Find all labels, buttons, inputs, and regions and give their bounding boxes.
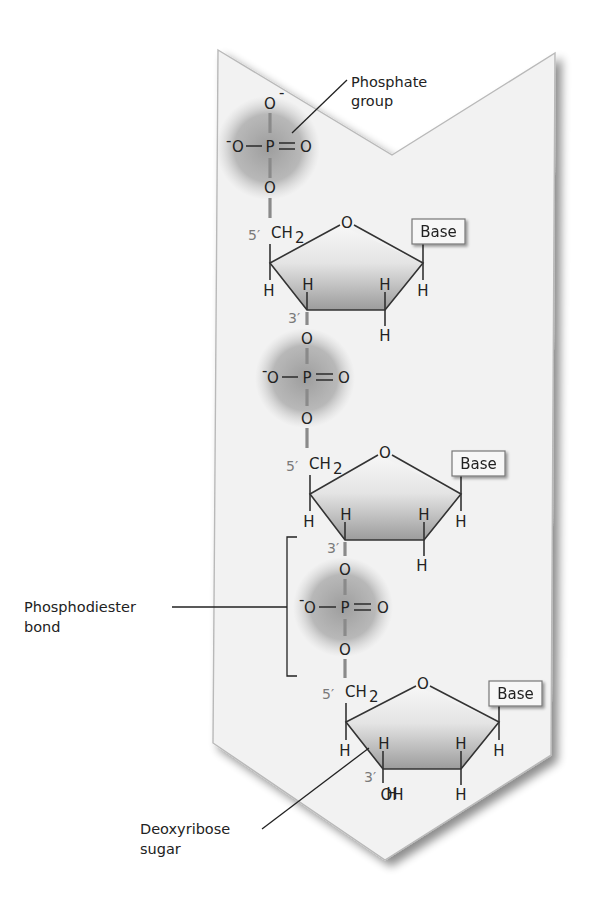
svg-text:H: H: [455, 735, 466, 753]
svg-text:H: H: [339, 742, 350, 760]
svg-text:2: 2: [295, 229, 305, 247]
svg-text:O: O: [301, 410, 313, 428]
base-box-1: Base: [412, 219, 465, 244]
svg-text:CH: CH: [309, 455, 331, 473]
svg-text:3′: 3′: [327, 540, 339, 556]
svg-text:O: O: [379, 444, 391, 462]
svg-text:CH: CH: [271, 224, 293, 242]
three-prime-hydroxyl: OH: [380, 786, 403, 804]
svg-text:5′: 5′: [286, 458, 298, 474]
svg-text:Phosphodiester: Phosphodiester: [24, 599, 136, 615]
svg-text:H: H: [378, 735, 389, 753]
svg-text:Base: Base: [497, 685, 534, 703]
svg-text:H: H: [455, 513, 466, 531]
svg-text:P: P: [302, 369, 311, 387]
svg-text:bond: bond: [24, 619, 60, 635]
svg-text:-: -: [279, 84, 284, 102]
svg-text:-: -: [226, 132, 231, 150]
svg-text:sugar: sugar: [140, 841, 181, 857]
svg-text:Phosphate: Phosphate: [351, 74, 427, 90]
svg-text:H: H: [417, 282, 428, 300]
svg-text:5′: 5′: [322, 686, 334, 702]
dna-strand-diagram: O - - O P O O O CH 2 5′ H H H H H 3′ Bas…: [0, 0, 600, 901]
svg-text:O: O: [341, 214, 353, 232]
svg-text:O: O: [267, 369, 279, 387]
svg-text:O: O: [232, 138, 244, 156]
svg-text:H: H: [418, 506, 429, 524]
svg-text:Base: Base: [420, 223, 457, 241]
svg-text:group: group: [351, 93, 393, 109]
svg-text:H: H: [455, 786, 466, 804]
svg-text:Deoxyribose: Deoxyribose: [140, 821, 230, 837]
svg-text:3′: 3′: [288, 310, 300, 326]
svg-text:CH: CH: [345, 683, 367, 701]
svg-text:O: O: [264, 95, 276, 113]
svg-text:O: O: [301, 330, 313, 348]
svg-text:O: O: [339, 641, 351, 659]
svg-text:O: O: [339, 561, 351, 579]
svg-text:2: 2: [333, 460, 343, 478]
svg-text:H: H: [416, 557, 427, 575]
svg-text:5′: 5′: [248, 227, 260, 243]
svg-text:2: 2: [369, 688, 379, 706]
svg-text:O: O: [417, 675, 429, 693]
svg-text:P: P: [340, 599, 349, 617]
base-box-3: Base: [489, 681, 542, 706]
svg-text:H: H: [379, 327, 390, 345]
svg-text:3′: 3′: [364, 769, 376, 785]
svg-text:Base: Base: [460, 455, 497, 473]
svg-text:H: H: [340, 506, 351, 524]
svg-text:O: O: [300, 138, 312, 156]
svg-text:H: H: [493, 742, 504, 760]
svg-text:H: H: [303, 513, 314, 531]
base-box-2: Base: [452, 451, 505, 476]
svg-text:H: H: [302, 276, 313, 294]
svg-text:O: O: [377, 599, 389, 617]
svg-text:O: O: [338, 369, 350, 387]
svg-text:H: H: [379, 276, 390, 294]
svg-text:O: O: [264, 179, 276, 197]
svg-text:P: P: [265, 138, 274, 156]
svg-text:H: H: [263, 282, 274, 300]
svg-text:O: O: [304, 599, 316, 617]
